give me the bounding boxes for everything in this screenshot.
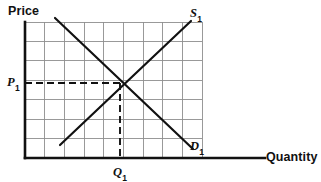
demand-curve-label-subscript: 1 xyxy=(199,147,204,157)
equilibrium-quantity-label: Q1 xyxy=(113,166,127,181)
supply-demand-figure: Price Quantity S1 D1 P1 Q1 xyxy=(0,0,321,182)
axes xyxy=(25,22,265,158)
demand-curve-label-text: D xyxy=(190,139,199,153)
x-axis-label: Quantity xyxy=(266,151,318,164)
equilibrium-quantity-label-subscript: 1 xyxy=(122,173,127,182)
grid-lines xyxy=(25,22,202,158)
equilibrium-price-label-text: P xyxy=(7,75,15,89)
supply-curve-label: S1 xyxy=(190,7,202,22)
supply-curve xyxy=(60,21,191,145)
equilibrium-price-label-subscript: 1 xyxy=(15,83,20,93)
equilibrium-price-label: P1 xyxy=(7,76,19,91)
demand-curve-label: D1 xyxy=(190,140,204,155)
equilibrium-quantity-label-text: Q xyxy=(113,165,122,179)
equilibrium-guides xyxy=(25,83,120,158)
supply-curve-label-subscript: 1 xyxy=(197,14,202,24)
y-axis-label: Price xyxy=(8,5,39,18)
supply-curve-label-text: S xyxy=(190,6,197,20)
